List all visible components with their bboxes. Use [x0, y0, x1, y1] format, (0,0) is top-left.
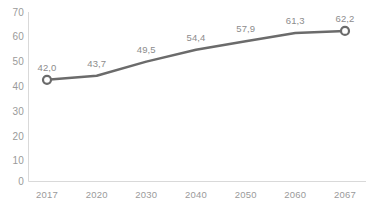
x-tick-label-2030: 2030 — [135, 190, 157, 200]
data-label-2050: 57,9 — [236, 24, 255, 34]
x-tick-label-2050: 2050 — [235, 190, 257, 200]
data-point-marker — [43, 76, 51, 84]
x-tick-label-2067: 2067 — [334, 190, 356, 200]
x-tick-label-2017: 2017 — [36, 190, 58, 200]
data-label-2060: 61,3 — [286, 16, 305, 26]
x-tick-label-2020: 2020 — [86, 190, 108, 200]
x-tick-label-2060: 2060 — [284, 190, 306, 200]
plot-area — [0, 0, 371, 212]
data-label-2017: 42,0 — [38, 63, 57, 73]
data-label-2040: 54,4 — [187, 33, 206, 43]
data-point-marker — [341, 27, 349, 35]
data-label-2020: 43,7 — [87, 59, 106, 69]
x-tick-label-2040: 2040 — [185, 190, 207, 200]
data-label-2030: 49,5 — [137, 45, 156, 55]
data-label-2067: 62,2 — [336, 14, 355, 24]
line-chart: 70 60 50 40 30 20 10 0 42,043,749,554,45… — [0, 0, 371, 212]
